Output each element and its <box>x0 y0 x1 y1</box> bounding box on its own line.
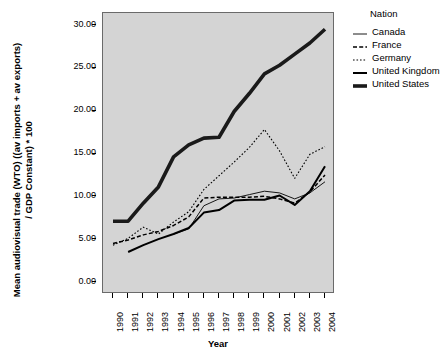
y-axis-tickmark <box>92 238 96 239</box>
x-axis-tickmark <box>142 293 143 298</box>
series-line-united-states <box>113 29 325 221</box>
x-axis-tick-label: 1997 <box>222 312 231 332</box>
series-line-germany <box>113 130 325 246</box>
legend-key-icon <box>352 78 368 90</box>
x-axis-tick-label: 1995 <box>192 312 201 332</box>
legend: Nation CanadaFranceGermanyUnited Kingdom… <box>352 8 448 90</box>
x-axis-tickmarks <box>102 293 334 299</box>
y-axis-tickmark <box>92 281 96 282</box>
legend-item-france: France <box>352 38 448 51</box>
legend-item-label: United States <box>372 78 429 90</box>
x-axis-tick-label: 2003 <box>313 312 322 332</box>
legend-item-united-states: United States <box>352 77 448 90</box>
x-axis-tick-label: 1994 <box>177 312 186 332</box>
x-axis-tickmark <box>203 293 204 298</box>
x-axis-title: Year <box>102 338 334 349</box>
legend-items: CanadaFranceGermanyUnited KingdomUnited … <box>352 25 448 90</box>
y-axis-ticks: 0.005.0010.0015.0020.0025.0030.00 <box>56 0 96 353</box>
x-axis-tick-label: 2002 <box>298 312 307 332</box>
series-line-canada <box>174 182 325 234</box>
legend-key-icon <box>352 65 368 77</box>
y-axis-tick-label: 30.00 <box>62 20 96 29</box>
legend-item-label: France <box>372 39 402 51</box>
legend-item-canada: Canada <box>352 25 448 38</box>
legend-key-icon <box>352 39 368 51</box>
legend-key-icon <box>352 52 368 64</box>
x-axis-tickmark <box>173 293 174 298</box>
x-axis-tickmark <box>324 293 325 298</box>
y-axis-tickmark <box>92 67 96 68</box>
y-axis-title-line2: / GDP Constant) * 100 <box>23 121 34 219</box>
x-axis-tick-label: 1993 <box>161 312 170 332</box>
legend-item-label: Germany <box>372 52 411 64</box>
y-axis-tick-label: 20.00 <box>62 105 96 114</box>
series-line-united-kingdom <box>128 166 325 252</box>
x-axis-tick-label: 1996 <box>207 312 216 332</box>
y-axis-tickmark <box>92 153 96 154</box>
x-axis-tickmark <box>112 293 113 298</box>
x-axis-ticklabels: 1990199119921993199419951996199719981999… <box>102 300 334 340</box>
plot-panel <box>102 12 334 293</box>
x-axis-tick-label: 1991 <box>131 312 140 332</box>
legend-item-label: Canada <box>372 26 405 38</box>
x-axis-tickmark <box>218 293 219 298</box>
y-axis-tick-label: 15.00 <box>62 148 96 157</box>
x-axis-tickmark <box>263 293 264 298</box>
x-axis-tick-label: 2000 <box>267 312 276 332</box>
y-axis-tick-label: 25.00 <box>62 62 96 71</box>
y-axis-tickmark <box>92 24 96 25</box>
x-axis-tick-label: 2004 <box>328 312 337 332</box>
y-axis-title-line1: Mean audiovisual trade (WTO) ((av import… <box>11 43 22 298</box>
chart-figure: Mean audiovisual trade (WTO) ((av import… <box>0 0 448 353</box>
y-axis-tick-label: 5.00 <box>62 234 96 243</box>
x-axis-tick-label: 1999 <box>252 312 261 332</box>
legend-item-label: United Kingdom <box>372 65 440 77</box>
plot-lines <box>103 13 335 294</box>
y-axis-tick-label: 0.00 <box>62 277 96 286</box>
x-axis-tick-label: 1992 <box>146 312 155 332</box>
legend-key-icon <box>352 26 368 38</box>
x-axis-tickmark <box>294 293 295 298</box>
y-axis-title-container: Mean audiovisual trade (WTO) ((av import… <box>0 8 56 298</box>
legend-item-united-kingdom: United Kingdom <box>352 64 448 77</box>
y-axis-tickmark <box>92 110 96 111</box>
x-axis-tickmark <box>233 293 234 298</box>
x-axis-tickmark <box>248 293 249 298</box>
x-axis-tickmark <box>309 293 310 298</box>
y-axis-tick-label: 10.00 <box>62 191 96 200</box>
x-axis-tick-label: 1998 <box>237 312 246 332</box>
legend-item-germany: Germany <box>352 51 448 64</box>
x-axis-tick-label: 1990 <box>116 312 125 332</box>
y-axis-title: Mean audiovisual trade (WTO) ((av import… <box>11 35 35 305</box>
x-axis-tickmark <box>127 293 128 298</box>
y-axis-tickmark <box>92 195 96 196</box>
x-axis-tickmark <box>188 293 189 298</box>
x-axis-tick-label: 2001 <box>283 312 292 332</box>
x-axis-tickmark <box>157 293 158 298</box>
legend-title: Nation <box>370 8 448 19</box>
x-axis-tickmark <box>279 293 280 298</box>
